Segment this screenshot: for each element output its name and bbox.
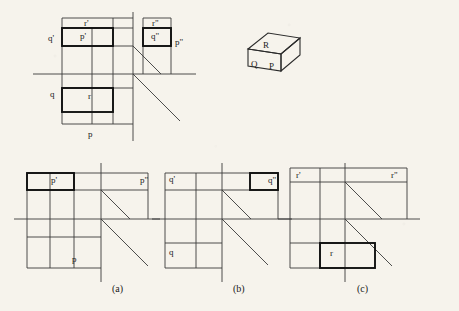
label-b-q-prime: q' bbox=[169, 175, 175, 184]
label-q-double-prime: q" bbox=[151, 32, 159, 41]
label-c-r-lower: r bbox=[330, 249, 333, 258]
label-solid-Q: Q bbox=[251, 60, 258, 69]
label-a-p-bottom: p bbox=[72, 255, 77, 264]
caption-c: (c) bbox=[357, 284, 368, 294]
label-c-r-prime: r' bbox=[296, 171, 301, 180]
label-p-prime: p' bbox=[80, 32, 86, 41]
label-q-lower: q bbox=[50, 90, 55, 99]
label-q-prime: q' bbox=[48, 34, 54, 43]
label-b-q-double-prime: q" bbox=[268, 176, 276, 185]
label-a-p-prime: p' bbox=[51, 176, 57, 185]
label-b-q-lower: q bbox=[169, 248, 174, 257]
top-bold-rect-p-prime bbox=[62, 28, 113, 46]
label-solid-R: R bbox=[263, 41, 269, 50]
label-p-bottom: p bbox=[88, 130, 93, 139]
engineering-drawing-svg bbox=[0, 0, 459, 311]
label-a-p-double-prime: p" bbox=[140, 176, 148, 185]
label-p-double-prime: p" bbox=[175, 38, 183, 47]
caption-a: (a) bbox=[112, 284, 123, 294]
label-r-prime: r' bbox=[84, 19, 89, 28]
label-r-double-prime: r" bbox=[152, 19, 159, 28]
label-r-lower: r bbox=[88, 92, 91, 101]
label-c-r-double-prime: r" bbox=[391, 171, 398, 180]
panel-a-group bbox=[14, 163, 160, 282]
figure-canvas: q' p' r' r" q" p" q r p R Q P p' p" p (a… bbox=[0, 0, 459, 311]
caption-b: (b) bbox=[233, 284, 245, 294]
c-bold-rect-r bbox=[320, 243, 375, 268]
label-solid-P: P bbox=[269, 62, 274, 71]
panel-c-group bbox=[278, 163, 420, 282]
